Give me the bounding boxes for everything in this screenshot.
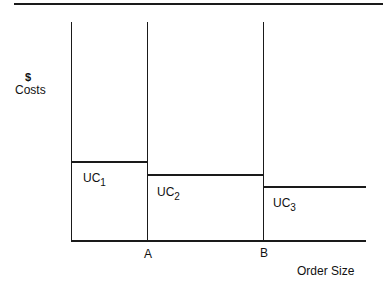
y-axis-label: Costs bbox=[15, 84, 46, 97]
uc1-line bbox=[71, 161, 148, 163]
x-axis bbox=[71, 240, 366, 242]
divider-b bbox=[263, 22, 264, 241]
uc2-line bbox=[147, 174, 264, 176]
x-tick-a: A bbox=[144, 248, 152, 261]
uc3-line bbox=[263, 186, 366, 188]
x-axis-label: Order Size bbox=[297, 265, 354, 278]
uc1-label: UC1 bbox=[83, 172, 106, 185]
y-axis bbox=[71, 22, 72, 242]
divider-a bbox=[147, 22, 148, 241]
x-tick-b: B bbox=[260, 247, 268, 260]
uc2-label: UC2 bbox=[157, 186, 180, 199]
uc3-label: UC3 bbox=[273, 197, 296, 210]
top-rule bbox=[14, 3, 383, 5]
